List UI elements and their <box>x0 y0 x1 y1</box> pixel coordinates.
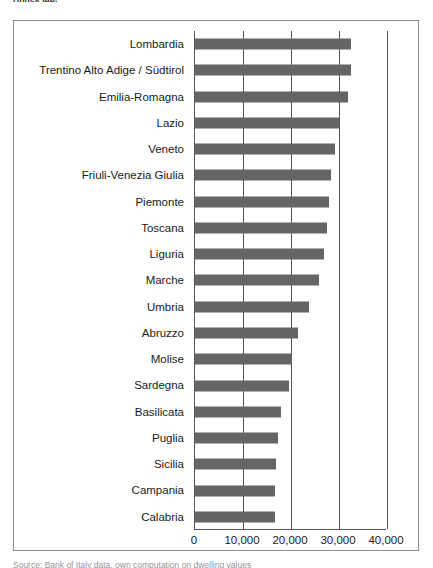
category-label: Lazio <box>157 110 185 136</box>
bar-row <box>195 425 386 451</box>
category-label: Liguria <box>149 241 184 267</box>
x-tick-label: 30,000 <box>320 534 355 546</box>
bar <box>195 196 329 207</box>
bar-row <box>195 110 386 136</box>
bar <box>195 406 281 417</box>
bar-series <box>195 31 386 529</box>
bar <box>195 380 289 391</box>
category-label: Sicilia <box>154 451 184 477</box>
category-label: Calabria <box>141 504 184 530</box>
category-label: Marche <box>146 267 184 293</box>
bar <box>195 222 327 233</box>
bar-row <box>195 346 386 372</box>
bar-row <box>195 31 386 57</box>
bar-row <box>195 477 386 503</box>
bar <box>195 170 331 181</box>
x-tick-label: 20,000 <box>272 534 307 546</box>
bar <box>195 511 275 522</box>
bar <box>195 39 351 50</box>
bar-row <box>195 267 386 293</box>
bar <box>195 301 309 312</box>
bar-row <box>195 136 386 162</box>
x-tick-label: 0 <box>191 534 197 546</box>
plot-area <box>194 31 386 530</box>
bar-row <box>195 189 386 215</box>
category-label: Sardegna <box>134 372 184 398</box>
bar <box>195 459 276 470</box>
chart-frame: LombardiaTrentino Alto Adige / SüdtirolE… <box>13 20 419 551</box>
gridline <box>387 31 388 529</box>
bar-row <box>195 162 386 188</box>
bar-row <box>195 57 386 83</box>
category-axis: LombardiaTrentino Alto Adige / SüdtirolE… <box>14 31 190 530</box>
category-label: Lombardia <box>130 31 184 57</box>
category-label: Basilicata <box>135 399 184 425</box>
bar-row <box>195 504 386 530</box>
category-label: Abruzzo <box>142 320 184 346</box>
category-label: Molise <box>151 346 184 372</box>
category-label: Piemonte <box>135 189 184 215</box>
bar <box>195 65 351 76</box>
category-label: Toscana <box>141 215 184 241</box>
category-label: Puglia <box>152 425 184 451</box>
bar-row <box>195 294 386 320</box>
bar <box>195 91 348 102</box>
bar-row <box>195 451 386 477</box>
category-label: Campania <box>132 477 184 503</box>
x-tick-label: 10,000 <box>224 534 259 546</box>
bar-row <box>195 399 386 425</box>
bar <box>195 433 278 444</box>
bar <box>195 354 292 365</box>
bottom-caption: Source: Bank of Italy data, own computat… <box>13 560 251 568</box>
bar <box>195 328 298 339</box>
category-label: Friuli-Venezia Giulia <box>82 162 184 188</box>
category-label: Trentino Alto Adige / Südtirol <box>39 57 184 83</box>
bar-row <box>195 215 386 241</box>
bar-row <box>195 320 386 346</box>
bar <box>195 275 319 286</box>
category-label: Emilia-Romagna <box>99 84 184 110</box>
x-axis-tick-labels: 010,00020,00030,00040,000 <box>194 534 386 550</box>
bar <box>195 117 339 128</box>
bar <box>195 144 335 155</box>
bar <box>195 485 275 496</box>
category-label: Veneto <box>148 136 184 162</box>
bar-row <box>195 84 386 110</box>
bar <box>195 249 324 260</box>
bar-row <box>195 241 386 267</box>
bar-row <box>195 372 386 398</box>
category-label: Umbria <box>147 294 184 320</box>
top-caption: Annex tab. <box>13 0 57 4</box>
x-tick-label: 40,000 <box>368 534 403 546</box>
